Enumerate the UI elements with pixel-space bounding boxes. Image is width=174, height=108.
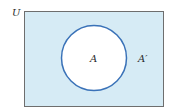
- complement-label: A′: [137, 53, 148, 64]
- set-a-label: A: [89, 53, 97, 64]
- universe-label: U: [12, 7, 21, 18]
- venn-diagram: U A A′: [0, 0, 174, 108]
